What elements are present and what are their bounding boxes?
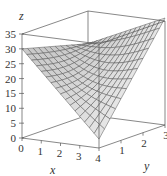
surface-mesh	[22, 18, 165, 139]
y-tick-label: 3	[163, 129, 167, 141]
x-axis-label: x	[49, 163, 56, 176]
z-tick-label: 15	[5, 87, 17, 99]
z-tick-label: 5	[11, 117, 17, 129]
z-tick-label: 25	[5, 58, 17, 70]
z-tick-label: 0	[11, 132, 17, 144]
surface-plot: 0510152025303501234123 z x y	[0, 0, 167, 176]
y-tick-label: 1	[119, 144, 125, 156]
y-axis-label: y	[143, 159, 150, 173]
y-tick-label: 2	[141, 137, 147, 149]
x-tick-label: 1	[38, 145, 44, 157]
x-tick-label: 0	[18, 142, 24, 154]
z-tick-label: 10	[5, 102, 17, 114]
z-tick-label: 20	[5, 73, 17, 85]
z-tick-label: 35	[5, 28, 17, 40]
z-axis-label: z	[18, 9, 24, 23]
x-tick-label: 4	[95, 152, 101, 164]
x-tick-label: 2	[57, 147, 63, 159]
z-tick-label: 30	[5, 43, 17, 55]
x-tick-label: 3	[76, 150, 82, 162]
